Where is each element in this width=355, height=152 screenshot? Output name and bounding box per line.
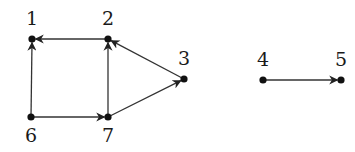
node-label-2: 2 [102, 7, 114, 29]
node-7 [104, 113, 111, 120]
node-4 [259, 76, 266, 83]
edge-3-to-2 [111, 41, 184, 79]
node-label-5: 5 [335, 48, 347, 70]
node-label-6: 6 [25, 124, 37, 146]
directed-graph: 1234567 [0, 0, 355, 152]
node-label-1: 1 [26, 7, 38, 29]
node-label-7: 7 [102, 124, 114, 146]
edge-6-to-1 [31, 43, 32, 117]
node-1 [28, 35, 35, 42]
node-2 [104, 35, 111, 42]
node-3 [180, 75, 187, 82]
node-5 [337, 76, 344, 83]
edge-7-to-3 [108, 81, 181, 117]
node-label-3: 3 [178, 47, 190, 69]
node-6 [27, 113, 34, 120]
node-label-4: 4 [257, 48, 269, 70]
